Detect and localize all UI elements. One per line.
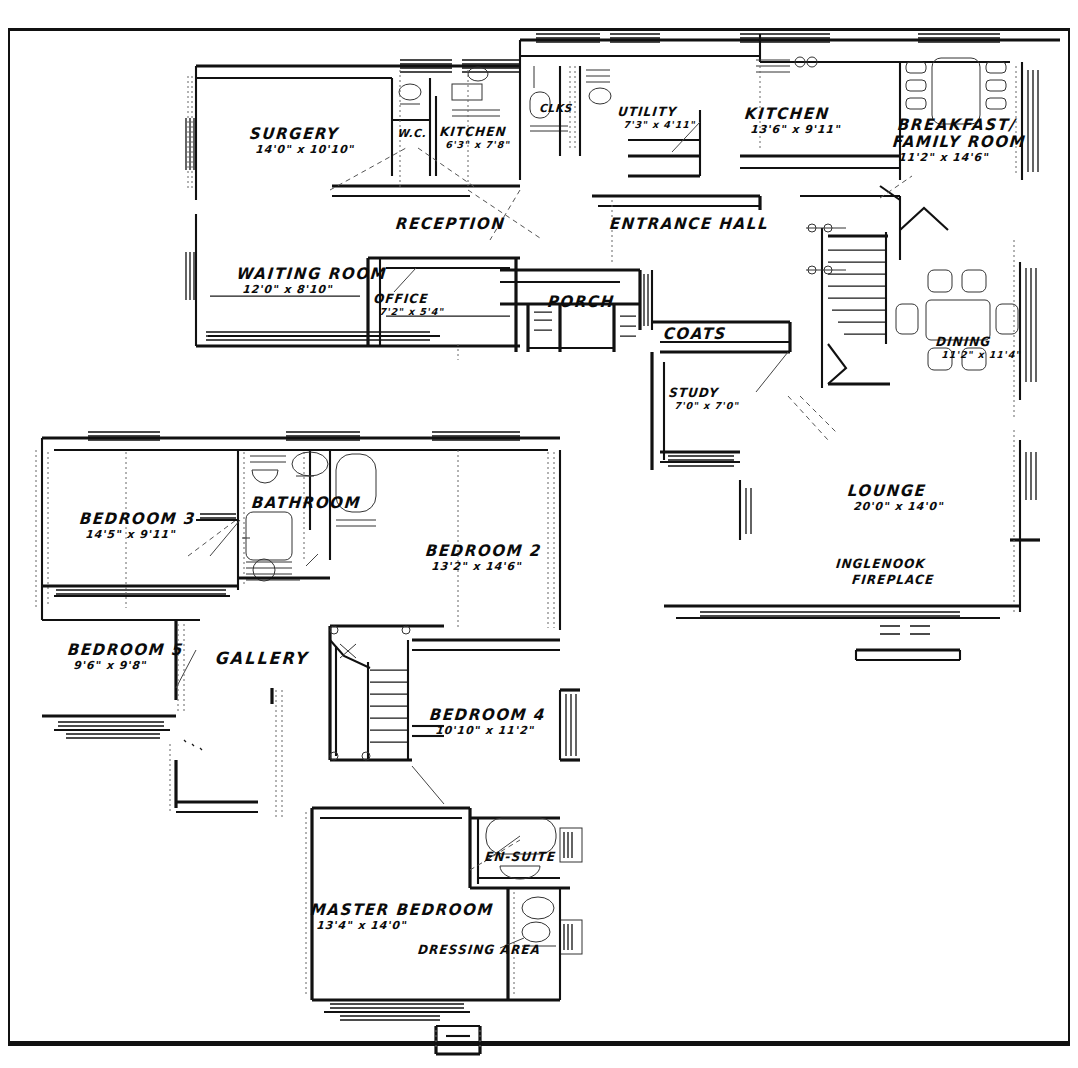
room-name-bedroom-5: BEDROOM 5 xyxy=(67,641,185,659)
room-label-lounge: LOUNGE 20'0" x 14'0" xyxy=(848,483,945,513)
room-name-utility: UTILITY xyxy=(617,106,697,120)
room-name-entrance-hall: ENTRANCE HALL xyxy=(609,215,770,233)
room-label-dressing-area: DRESSING AREA xyxy=(418,944,541,957)
room-name-reception: RECEPTION xyxy=(395,215,506,233)
room-label-bedroom-2: BEDROOM 2 13'2" x 14'6" xyxy=(426,543,542,573)
room-label-kitchen-main: KITCHEN 13'6" x 9'11" xyxy=(745,106,842,136)
room-label-kitchen-surgery: KITCHEN 6'3" x 7'8" xyxy=(440,126,511,151)
room-name-study: STUDY xyxy=(668,387,740,401)
room-label-surgery: SURGERY 14'0" x 10'10" xyxy=(250,126,355,156)
room-label-bathroom: BATHROOM xyxy=(252,495,361,512)
room-label-entrance-hall: ENTRANCE HALL xyxy=(610,216,769,233)
room-label-utility: UTILITY 7'3" x 4'11" xyxy=(618,106,696,131)
room-dims-bedroom-5: 9'6" x 9'8" xyxy=(73,660,184,672)
room-name-porch: PORCH xyxy=(547,293,616,311)
room-dims-office: 7'2" x 5'4" xyxy=(379,307,445,318)
room-label-study: STUDY 7'0" x 7'0" xyxy=(669,387,740,412)
room-name-en-suite: EN-SUITE xyxy=(484,851,557,865)
room-label-waiting-room: WAITING ROOM 12'0" x 8'10" xyxy=(237,266,387,296)
room-label-bedroom-4: BEDROOM 4 10'10" x 11'2" xyxy=(430,707,546,737)
room-dims-family-room: 11'2" x 14'6" xyxy=(898,152,1027,164)
room-dims-surgery: 14'0" x 10'10" xyxy=(255,144,355,156)
room-label-family-room: FAMILY ROOM 11'2" x 14'6" xyxy=(893,134,1026,164)
room-name-inglenook: INGLENOOK xyxy=(835,558,926,572)
room-name-coats: COATS xyxy=(663,325,728,343)
room-name-clks: CLKS xyxy=(539,103,573,115)
room-dims-bedroom-3: 14'5" x 9'11" xyxy=(85,529,196,541)
room-label-dining: DINING 11'2" x 11'4" xyxy=(936,336,1022,361)
room-name-fireplace: FIREPLACE xyxy=(851,574,935,588)
room-name-gallery: GALLERY xyxy=(215,649,310,668)
room-label-wc: W.C. xyxy=(398,128,427,140)
room-label-en-suite: EN-SUITE xyxy=(485,851,556,864)
room-name-master-bedroom: MASTER BEDROOM xyxy=(310,901,495,919)
room-label-master-bedroom: MASTER BEDROOM 13'4" x 14'0" xyxy=(311,902,494,932)
room-name-surgery: SURGERY xyxy=(249,125,356,143)
room-name-bedroom-2: BEDROOM 2 xyxy=(425,542,543,560)
room-name-office: OFFICE xyxy=(373,293,445,307)
room-name-dining: DINING xyxy=(935,336,1022,350)
room-dims-bedroom-4: 10'10" x 11'2" xyxy=(435,725,546,737)
room-dims-waiting-room: 12'0" x 8'10" xyxy=(242,284,388,296)
room-label-bedroom-3: BEDROOM 3 14'5" x 9'11" xyxy=(80,511,196,541)
room-name-bedroom-3: BEDROOM 3 xyxy=(79,510,197,528)
room-label-reception: RECEPTION xyxy=(396,216,506,233)
room-dims-study: 7'0" x 7'0" xyxy=(674,401,740,412)
room-label-gallery: GALLERY xyxy=(216,650,309,668)
room-name-kitchen-surgery: KITCHEN xyxy=(439,126,511,140)
room-dims-kitchen-surgery: 6'3" x 7'8" xyxy=(445,140,511,151)
room-name-bathroom: BATHROOM xyxy=(251,494,362,512)
room-name-family-room: FAMILY ROOM xyxy=(892,133,1027,151)
room-name-lounge: LOUNGE xyxy=(847,482,945,500)
room-label-inglenook: INGLENOOK xyxy=(836,558,926,571)
room-label-coats: COATS xyxy=(664,326,727,343)
floor-plan-sheet: .w { stroke:#111; stroke-width:3.2; fill… xyxy=(0,0,1078,1068)
room-label-clks: CLKS xyxy=(540,103,573,115)
room-label-porch: PORCH xyxy=(548,294,615,311)
room-dims-lounge: 20'0" x 14'0" xyxy=(853,501,945,513)
room-name-dressing-area: DRESSING AREA xyxy=(417,944,542,958)
room-dims-bedroom-2: 13'2" x 14'6" xyxy=(431,561,542,573)
room-name-kitchen-main: KITCHEN xyxy=(744,105,842,123)
room-dims-dining: 11'2" x 11'4" xyxy=(941,350,1022,361)
room-name-waiting-room: WAITING ROOM xyxy=(236,265,388,283)
room-dims-master-bedroom: 13'4" x 14'0" xyxy=(316,920,494,932)
room-label-breakfast: BREAKFAST/ xyxy=(898,117,1017,134)
room-name-bedroom-4: BEDROOM 4 xyxy=(429,706,547,724)
room-label-bedroom-5: BEDROOM 5 9'6" x 9'8" xyxy=(68,642,184,672)
room-name-wc: W.C. xyxy=(397,128,427,140)
room-label-fireplace: FIREPLACE xyxy=(852,574,934,587)
room-dims-kitchen-main: 13'6" x 9'11" xyxy=(750,124,842,136)
room-label-office: OFFICE 7'2" x 5'4" xyxy=(374,293,445,318)
room-dims-utility: 7'3" x 4'11" xyxy=(623,120,696,131)
